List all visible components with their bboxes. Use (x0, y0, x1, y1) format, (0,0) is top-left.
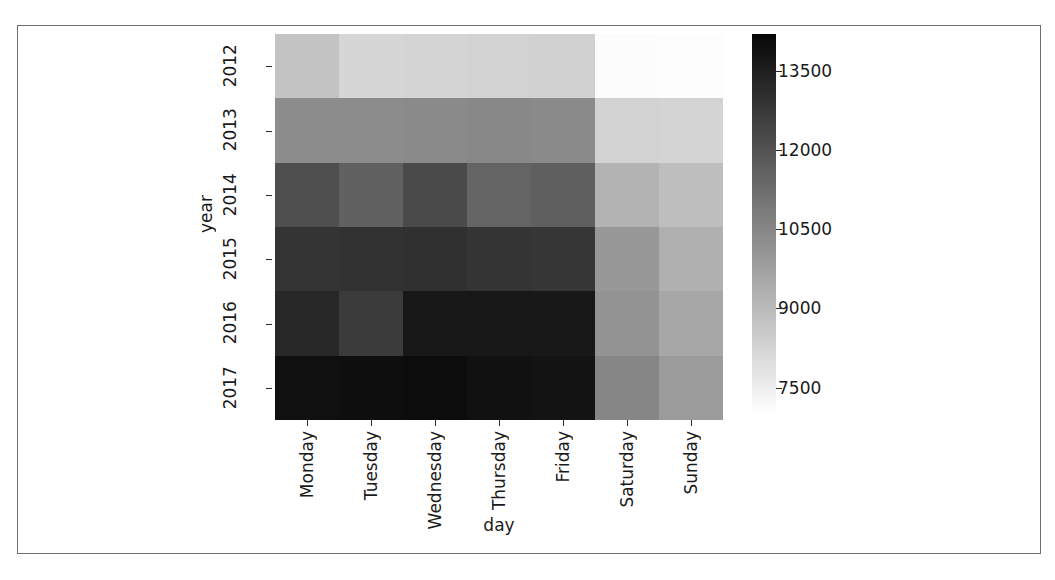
colorbar-tick-mark (776, 71, 782, 72)
x-tick-wednesday: Wednesday (403, 420, 467, 530)
heatmap-cell (403, 356, 467, 420)
x-axis-title: day (275, 515, 723, 535)
heatmap-cell (531, 356, 595, 420)
y-tick-label-2017: 2017 (198, 356, 262, 420)
y-tick-mark (266, 324, 272, 325)
heatmap-cell (531, 98, 595, 162)
heatmap-cell (595, 34, 659, 98)
heatmap-cell (531, 227, 595, 291)
colorbar-gradient (752, 34, 776, 414)
x-tick-sunday: Sunday (659, 420, 723, 530)
y-tick-label-2015: 2015 (198, 227, 262, 291)
heatmap-cell (403, 163, 467, 227)
x-tick-mark (307, 420, 308, 426)
heatmap-cell (275, 163, 339, 227)
x-tick-mark (435, 420, 436, 426)
heatmap-cell (403, 34, 467, 98)
x-axis-tick-labels: MondayTuesdayWednesdayThursdayFridaySatu… (275, 420, 723, 530)
x-tick-monday: Monday (275, 420, 339, 530)
heatmap-cell (595, 227, 659, 291)
heatmap-cell (595, 356, 659, 420)
heatmap-cell (467, 163, 531, 227)
heatmap-cell (339, 34, 403, 98)
heatmap-cell (659, 98, 723, 162)
colorbar-tick-label-7500: 7500 (778, 378, 821, 398)
x-tick-mark (499, 420, 500, 426)
heatmap-cell (659, 163, 723, 227)
heatmap-cell (339, 163, 403, 227)
heatmap-cell (595, 291, 659, 355)
heatmap-cell (659, 291, 723, 355)
y-tick-label-2013: 2013 (198, 98, 262, 162)
colorbar-tick-label-10500: 10500 (778, 219, 832, 239)
heatmap-cell (275, 227, 339, 291)
heatmap-cell (275, 34, 339, 98)
heatmap-cell (275, 291, 339, 355)
heatmap-cell (467, 34, 531, 98)
heatmap-cell (339, 356, 403, 420)
x-tick-label-friday: Friday (553, 431, 573, 483)
x-tick-mark (627, 420, 628, 426)
y-tick-label-2016: 2016 (198, 291, 262, 355)
heatmap-cell (339, 291, 403, 355)
heatmap-cell (659, 34, 723, 98)
x-tick-label-monday: Monday (297, 431, 317, 498)
heatmap-cell (595, 98, 659, 162)
x-tick-mark (371, 420, 372, 426)
x-tick-mark (563, 420, 564, 426)
y-tick-mark (266, 131, 272, 132)
heatmap-cell (531, 34, 595, 98)
heatmap-cell (659, 227, 723, 291)
x-tick-label-saturday: Saturday (617, 431, 637, 508)
heatmap-cell (275, 356, 339, 420)
heatmap-cell (467, 356, 531, 420)
heatmap-cell (467, 227, 531, 291)
y-tick-label-2014: 2014 (198, 163, 262, 227)
heatmap-cell (659, 356, 723, 420)
heatmap-cell (595, 163, 659, 227)
y-tick-mark (266, 195, 272, 196)
heatmap-cell (339, 227, 403, 291)
y-tick-label-2012: 2012 (198, 34, 262, 98)
x-tick-friday: Friday (531, 420, 595, 530)
heatmap-cell (531, 163, 595, 227)
heatmap-cell (467, 291, 531, 355)
y-tick-mark (266, 259, 272, 260)
heatmap-cell (403, 227, 467, 291)
y-tick-mark (266, 388, 272, 389)
colorbar-tick-mark (776, 388, 782, 389)
heatmap-grid (275, 34, 723, 420)
x-tick-label-thursday: Thursday (489, 431, 509, 510)
colorbar-tick-mark (776, 308, 782, 309)
colorbar-tick-mark (776, 150, 782, 151)
heatmap-cell (531, 291, 595, 355)
colorbar-tick-label-12000: 12000 (778, 140, 832, 160)
heatmap-cell (339, 98, 403, 162)
x-tick-label-sunday: Sunday (681, 431, 701, 495)
x-tick-saturday: Saturday (595, 420, 659, 530)
heatmap-cell (275, 98, 339, 162)
x-tick-mark (691, 420, 692, 426)
colorbar-tick-label-13500: 13500 (778, 61, 832, 81)
x-tick-label-tuesday: Tuesday (361, 431, 381, 500)
y-axis-tick-labels: 201220132014201520162017 (228, 34, 272, 420)
colorbar-tick-mark (776, 229, 782, 230)
figure-canvas: year 201220132014201520162017 MondayTues… (0, 0, 1055, 580)
colorbar: 13500120001050090007500 (752, 34, 776, 414)
y-tick-mark (266, 66, 272, 67)
heatmap-cell (403, 291, 467, 355)
heatmap-cell (467, 98, 531, 162)
x-tick-thursday: Thursday (467, 420, 531, 530)
heatmap-cell (403, 98, 467, 162)
colorbar-tick-label-9000: 9000 (778, 298, 821, 318)
x-tick-tuesday: Tuesday (339, 420, 403, 530)
